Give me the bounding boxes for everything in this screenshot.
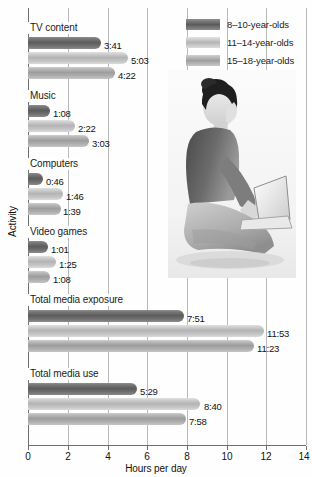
x-tick-2 xyxy=(68,446,69,450)
legend-swatch-15-18 xyxy=(186,55,220,66)
bar-value-computers-15-18: 1:39 xyxy=(63,206,81,218)
x-tick-label-14: 14 xyxy=(298,451,309,463)
x-tick-label-6: 6 xyxy=(144,451,150,463)
x-tick-8 xyxy=(187,446,188,450)
group-label-video-games: Video games xyxy=(28,226,90,238)
x-tick-label-2: 2 xyxy=(65,451,71,463)
legend-item: 11–14-year-olds xyxy=(186,34,310,50)
legend-label-15-18: 15–18-year-olds xyxy=(227,55,294,66)
bar-value-video-games-11-14: 1:25 xyxy=(59,259,77,271)
legend-item: 15–18-year-olds xyxy=(186,52,310,68)
bar-music-15-18 xyxy=(28,135,89,147)
group-label-music: Music xyxy=(28,90,59,102)
bar-total-use-15-18 xyxy=(28,413,186,425)
x-tick-label-12: 12 xyxy=(260,451,271,463)
bar-total-exposure-11-14 xyxy=(28,325,264,337)
bar-value-music-8-10: 1:08 xyxy=(53,108,71,120)
x-tick-14 xyxy=(306,446,307,450)
bar-video-games-8-10 xyxy=(28,241,48,253)
bar-value-tv-content-8-10: 3:41 xyxy=(104,40,122,52)
group-label-tv-content: TV content xyxy=(28,22,80,34)
x-tick-6 xyxy=(147,446,148,450)
bar-value-video-games-8-10: 1:01 xyxy=(51,244,69,256)
legend: 8–10-year-olds 11–14-year-olds 15–18-yea… xyxy=(186,16,310,70)
bar-total-use-8-10 xyxy=(28,383,137,395)
bar-video-games-15-18 xyxy=(28,271,50,283)
gridline-6 xyxy=(147,8,148,445)
bar-computers-8-10 xyxy=(28,173,43,185)
bar-tv-content-11-14 xyxy=(28,52,128,64)
x-tick-label-4: 4 xyxy=(105,451,111,463)
bar-total-exposure-15-18 xyxy=(28,340,254,352)
bar-tv-content-8-10 xyxy=(28,37,101,49)
bar-value-total-use-15-18: 7:58 xyxy=(189,416,207,428)
x-tick-0 xyxy=(28,446,29,450)
group-label-total-media-exposure: Total media exposure xyxy=(28,294,126,306)
bar-value-total-exposure-11-14: 11:53 xyxy=(267,328,289,340)
bar-total-exposure-8-10 xyxy=(28,310,184,322)
legend-swatch-11-14 xyxy=(186,37,220,48)
x-axis-title: Hours per day xyxy=(0,463,312,474)
legend-item: 8–10-year-olds xyxy=(186,16,310,32)
bar-music-11-14 xyxy=(28,120,75,132)
bar-total-use-11-14 xyxy=(28,398,200,410)
bar-value-music-11-14: 2:22 xyxy=(78,123,96,135)
x-tick-label-10: 10 xyxy=(221,451,232,463)
legend-swatch-8-10 xyxy=(186,19,220,30)
bar-value-music-15-18: 3:03 xyxy=(92,138,110,150)
bar-value-video-games-15-18: 1:08 xyxy=(53,274,71,286)
x-axis-line xyxy=(28,445,306,446)
bar-value-tv-content-11-14: 5:03 xyxy=(131,55,149,67)
bar-value-computers-8-10: 0:46 xyxy=(46,176,64,188)
x-tick-label-8: 8 xyxy=(184,451,190,463)
x-tick-4 xyxy=(108,446,109,450)
y-axis-title: Activity xyxy=(7,192,18,252)
bar-computers-11-14 xyxy=(28,188,63,200)
x-tick-label-0: 0 xyxy=(25,451,31,463)
group-label-computers: Computers xyxy=(28,158,81,170)
legend-label-11-14: 11–14-year-olds xyxy=(227,37,293,48)
bar-value-total-use-8-10: 5:29 xyxy=(140,386,158,398)
bar-value-computers-11-14: 1:46 xyxy=(66,191,84,203)
gridline-14 xyxy=(306,8,307,445)
bar-value-total-exposure-8-10: 7:51 xyxy=(187,313,205,325)
group-label-total-media-use: Total media use xyxy=(28,368,102,380)
bar-tv-content-15-18 xyxy=(28,67,115,79)
bar-computers-15-18 xyxy=(28,203,61,215)
legend-label-8-10: 8–10-year-olds xyxy=(227,19,289,30)
bar-value-total-use-11-14: 8:40 xyxy=(204,401,222,413)
bar-value-tv-content-15-18: 4:22 xyxy=(118,70,136,82)
bar-value-total-exposure-15-18: 11:23 xyxy=(257,343,279,355)
bar-music-8-10 xyxy=(28,105,50,117)
x-tick-12 xyxy=(266,446,267,450)
media-use-bar-chart: 8–10-year-olds 11–14-year-olds 15–18-yea… xyxy=(0,0,312,477)
x-tick-10 xyxy=(227,446,228,450)
photo-woman-with-laptop xyxy=(168,70,296,278)
bar-video-games-11-14 xyxy=(28,256,56,268)
